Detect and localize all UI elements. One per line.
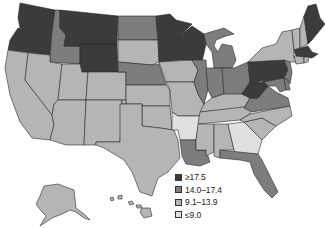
state-HI-2 bbox=[118, 195, 122, 199]
state-MT bbox=[60, 10, 118, 46]
state-RI bbox=[304, 57, 309, 63]
state-HI-5 bbox=[140, 208, 152, 218]
state-IA bbox=[159, 60, 198, 82]
state-ME bbox=[304, 4, 325, 44]
legend-item-c1: ≤9.0 bbox=[175, 209, 222, 221]
state-AZ bbox=[50, 100, 86, 145]
state-HI-1 bbox=[110, 197, 114, 201]
state-CO bbox=[86, 72, 126, 100]
state-IN bbox=[206, 68, 224, 98]
state-MI bbox=[204, 28, 236, 68]
legend-label: ≤9.0 bbox=[185, 210, 201, 220]
legend-label: 14.0–17.4 bbox=[185, 185, 222, 195]
legend-item-c2: 9.1–13.9 bbox=[175, 196, 222, 208]
state-KS bbox=[126, 85, 170, 106]
state-ND bbox=[118, 16, 158, 40]
state-SD bbox=[118, 40, 159, 65]
legend-label: 9.1–13.9 bbox=[185, 197, 217, 207]
legend-swatch bbox=[175, 211, 182, 218]
legend-swatch bbox=[175, 174, 182, 181]
legend-item-c3: 14.0–17.4 bbox=[175, 184, 222, 196]
state-CT bbox=[294, 56, 304, 64]
state-AK bbox=[36, 184, 90, 226]
legend: ≥17.5 14.0–17.4 9.1–13.9 ≤9.0 bbox=[175, 171, 222, 221]
state-HI-3 bbox=[128, 201, 134, 205]
legend-label: ≥17.5 bbox=[185, 172, 206, 182]
state-HI-4 bbox=[136, 205, 142, 208]
state-WY bbox=[80, 44, 118, 72]
state-FL bbox=[220, 150, 278, 198]
legend-swatch bbox=[175, 186, 182, 193]
us-choropleth-map bbox=[0, 0, 325, 228]
legend-item-c4: ≥17.5 bbox=[175, 171, 222, 183]
legend-swatch bbox=[175, 199, 182, 206]
state-WA bbox=[18, 3, 55, 32]
state-NM bbox=[84, 100, 122, 145]
